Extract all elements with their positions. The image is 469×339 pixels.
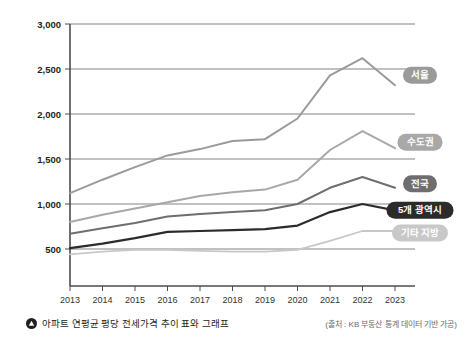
y-tick-label: 1,500 (37, 154, 61, 165)
legend-badge: 서울 (403, 67, 437, 84)
legend-badge-label: 기타 지방 (401, 227, 440, 238)
legend-badge: 수도권 (398, 134, 443, 151)
y-tick-label: 2,500 (37, 64, 61, 75)
series-line (70, 58, 395, 193)
legend-badge: 전국 (403, 175, 437, 192)
y-tick-label: 3,000 (37, 19, 61, 30)
series-line (70, 231, 395, 254)
caption-left: 아파트 연평균 평당 전세가격 추이 표와 그래프 (26, 316, 229, 330)
y-tick-label: 1,000 (37, 199, 61, 210)
chart-caption-row: 아파트 연평균 평당 전세가격 추이 표와 그래프 (출처 : KB 부동산 통… (0, 314, 469, 339)
legend-badge-label: 서울 (411, 69, 429, 80)
legend-badge: 5개 광역시 (387, 202, 454, 219)
legend-badge-label: 5개 광역시 (398, 204, 442, 215)
x-tick-label: 2017 (190, 295, 210, 305)
x-axis-tick-labels: 2013201420152016201720182019202020212022… (60, 286, 405, 305)
data-series-group (70, 58, 395, 254)
x-tick-label: 2023 (385, 295, 405, 305)
x-tick-label: 2018 (222, 295, 242, 305)
x-tick-label: 2020 (287, 295, 307, 305)
x-tick-label: 2014 (92, 295, 112, 305)
source-note: (출처 : KB 부동산 통계 데이터 기반 가공) (325, 318, 457, 329)
legend-badge-label: 전국 (411, 178, 429, 189)
series-line (70, 177, 395, 234)
x-tick-label: 2022 (352, 295, 372, 305)
x-tick-label: 2021 (320, 295, 340, 305)
x-tick-label: 2019 (255, 295, 275, 305)
y-tick-label: 500 (45, 244, 61, 255)
series-legend-badges: 서울수도권전국5개 광역시기타 지방 (387, 67, 454, 242)
triangle-up-circle-icon (26, 318, 37, 329)
caption-text: 아파트 연평균 평당 전세가격 추이 표와 그래프 (42, 316, 229, 330)
legend-badge: 기타 지방 (392, 225, 448, 242)
x-tick-label: 2013 (60, 295, 80, 305)
x-tick-label: 2015 (125, 295, 145, 305)
y-axis-tick-labels: 5001,0001,5002,0002,5003,000 (37, 19, 61, 255)
x-tick-label: 2016 (157, 295, 177, 305)
legend-badge-label: 수도권 (407, 136, 434, 147)
chart-container: 5001,0001,5002,0002,5003,000 20132014201… (0, 0, 469, 339)
line-chart-svg: 5001,0001,5002,0002,5003,000 20132014201… (0, 0, 469, 339)
y-tick-label: 2,000 (37, 109, 61, 120)
